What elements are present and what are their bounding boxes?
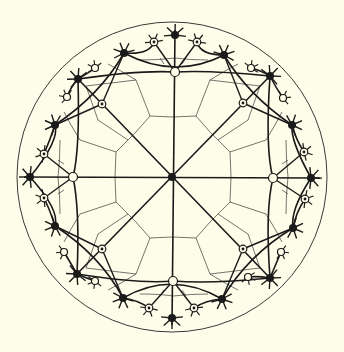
white-vertex [92, 65, 99, 72]
spoke-line [102, 53, 124, 104]
white-vertex [171, 68, 180, 77]
cell-edge [140, 294, 208, 296]
white-vertex [269, 174, 278, 183]
geodesic-arc [73, 79, 78, 177]
white-vertex [92, 278, 99, 285]
dotted-vertex-center [153, 41, 156, 44]
black-vertex [220, 51, 228, 59]
white-vertex [169, 277, 178, 286]
black-vertex [26, 173, 34, 181]
white-vertex [69, 173, 78, 182]
black-vertex [74, 75, 82, 83]
geodesic-arc [78, 72, 175, 79]
black-vertex [168, 314, 176, 322]
black-vertex [73, 270, 81, 278]
white-vertex [245, 274, 252, 281]
black-vertex [288, 121, 296, 129]
dotted-vertex-center [303, 151, 306, 154]
geodesic-arc [173, 278, 270, 282]
geodesic-arc [73, 177, 78, 274]
dotted-vertex-center [242, 102, 245, 105]
hyperbolic-tiling-diagram: Hyperbolic tiling in the Poincaré disk [0, 0, 344, 352]
spoke-line [102, 249, 123, 298]
black-vertex [266, 274, 274, 282]
geodesic-arc [268, 178, 273, 278]
black-vertex [51, 121, 59, 129]
black-vertex [120, 49, 128, 57]
cell-edge [286, 140, 288, 214]
black-vertex [51, 222, 59, 230]
dotted-vertex-center [196, 41, 199, 44]
dotted-vertex-center [43, 153, 46, 156]
black-vertex [119, 294, 127, 302]
dotted-vertex-center [148, 307, 151, 310]
white-vertex [278, 249, 285, 256]
geodesic-arc [224, 55, 292, 125]
dotted-vertex-center [101, 103, 104, 106]
white-vertex [64, 94, 71, 101]
cell-edge [150, 116, 196, 117]
dotted-vertex-center [43, 197, 46, 200]
vertex-nodes [26, 31, 315, 322]
dotted-vertex-center [193, 307, 196, 310]
center-vertex [168, 173, 176, 181]
geodesic-arc [268, 76, 273, 178]
cell-edge [136, 80, 210, 116]
black-vertex [289, 224, 297, 232]
dotted-vertex-center [304, 198, 307, 201]
black-vertex [307, 174, 315, 182]
black-vertex [171, 31, 179, 39]
dotted-vertex-center [242, 248, 245, 251]
cell-edge [210, 80, 260, 120]
black-vertex [266, 72, 274, 80]
dotted-vertex-center [101, 248, 104, 251]
black-vertex [218, 295, 226, 303]
white-vertex [61, 249, 68, 256]
geodesic-arc [175, 72, 270, 77]
cell-edge [136, 116, 210, 132]
white-vertex [248, 65, 255, 72]
white-vertex [280, 95, 287, 102]
geodesic-arc [270, 252, 281, 278]
